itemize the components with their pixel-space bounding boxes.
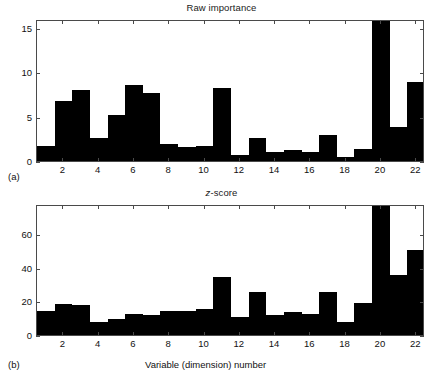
x-tick-mark-top <box>309 20 310 24</box>
bar-series-raw-importance <box>37 21 423 161</box>
x-tick-mark <box>415 332 416 336</box>
x-tick-mark <box>98 158 99 162</box>
panel-b-title: z-score <box>0 187 443 198</box>
bar <box>266 152 284 161</box>
x-tick-mark-top <box>204 20 205 24</box>
x-tick-mark <box>380 158 381 162</box>
y-tick-label: 15 <box>2 24 32 34</box>
bar <box>213 277 231 335</box>
y-tick-label: 60 <box>2 230 32 240</box>
panel-a-title: Raw importance <box>0 2 443 13</box>
bar-series-z-score <box>37 206 423 335</box>
panel-b-letter: (b) <box>8 359 20 370</box>
bar <box>72 90 90 161</box>
y-tick-mark-right <box>420 269 424 270</box>
bar <box>319 135 337 161</box>
y-tick-mark-right <box>420 235 424 236</box>
y-tick-mark <box>36 162 40 163</box>
bar <box>266 315 284 335</box>
x-tick-mark <box>62 158 63 162</box>
bar <box>302 314 320 335</box>
y-tick-mark-right <box>420 336 424 337</box>
x-tick-mark-top <box>62 20 63 24</box>
x-tick-label: 10 <box>189 165 219 175</box>
y-tick-mark-right <box>420 29 424 30</box>
panel-z-score: z-score 0204060 246810121416182022 (b) V… <box>0 185 443 378</box>
x-tick-mark-top <box>98 205 99 209</box>
x-tick-mark-top <box>133 205 134 209</box>
x-tick-label: 20 <box>365 165 395 175</box>
bar <box>178 147 196 161</box>
bar <box>354 303 372 335</box>
x-tick-mark-top <box>345 20 346 24</box>
x-tick-mark <box>133 332 134 336</box>
bar <box>407 82 424 161</box>
y-tick-mark <box>36 118 40 119</box>
x-tick-label: 12 <box>224 339 254 349</box>
x-tick-label: 6 <box>118 339 148 349</box>
panel-a-letter: (a) <box>8 171 20 182</box>
x-tick-mark-top <box>380 20 381 24</box>
x-tick-mark <box>62 332 63 336</box>
y-tick-label: 0 <box>2 157 32 167</box>
x-tick-label: 8 <box>153 339 183 349</box>
bar <box>354 149 372 161</box>
x-tick-mark <box>309 332 310 336</box>
x-tick-mark-top <box>309 205 310 209</box>
bar <box>213 88 231 161</box>
x-tick-mark <box>204 158 205 162</box>
x-tick-mark <box>345 158 346 162</box>
y-tick-mark-right <box>420 73 424 74</box>
bar <box>143 315 161 335</box>
x-tick-label: 16 <box>294 339 324 349</box>
plot-area-raw-importance <box>36 20 424 162</box>
x-tick-mark-top <box>168 205 169 209</box>
x-tick-label: 22 <box>400 165 430 175</box>
x-tick-mark <box>415 158 416 162</box>
y-tick-mark <box>36 235 40 236</box>
x-tick-mark-top <box>239 20 240 24</box>
bar <box>125 85 143 161</box>
x-tick-label: 4 <box>83 339 113 349</box>
x-tick-mark <box>274 158 275 162</box>
x-tick-label: 22 <box>400 339 430 349</box>
x-tick-mark <box>274 332 275 336</box>
bar <box>284 150 302 161</box>
bar <box>143 93 161 161</box>
x-tick-mark <box>133 158 134 162</box>
x-tick-mark-top <box>168 20 169 24</box>
x-tick-mark-top <box>133 20 134 24</box>
bar <box>390 127 408 161</box>
bar <box>302 152 320 161</box>
x-tick-mark-top <box>204 205 205 209</box>
bar <box>160 311 178 335</box>
x-tick-label: 20 <box>365 339 395 349</box>
x-tick-label: 18 <box>330 339 360 349</box>
x-tick-mark-top <box>345 205 346 209</box>
x-tick-label: 2 <box>47 165 77 175</box>
bar <box>178 311 196 335</box>
bar <box>390 275 408 335</box>
y-tick-mark-right <box>420 162 424 163</box>
x-tick-mark-top <box>415 20 416 24</box>
x-tick-mark-top <box>415 205 416 209</box>
x-tick-mark-top <box>62 205 63 209</box>
panel-raw-importance: Raw importance 051015 246810121416182022… <box>0 0 443 185</box>
bar <box>160 144 178 161</box>
bar <box>372 205 390 335</box>
bar <box>72 305 90 335</box>
bar <box>55 101 73 161</box>
y-tick-mark <box>36 73 40 74</box>
x-tick-mark-top <box>380 205 381 209</box>
y-tick-label: 10 <box>2 68 32 78</box>
x-tick-mark <box>309 158 310 162</box>
x-tick-label: 10 <box>189 339 219 349</box>
x-tick-mark <box>239 158 240 162</box>
y-tick-mark-right <box>420 118 424 119</box>
x-tick-mark-top <box>274 20 275 24</box>
y-tick-mark <box>36 302 40 303</box>
bar <box>108 319 126 335</box>
x-tick-label: 16 <box>294 165 324 175</box>
bar <box>55 304 73 335</box>
bar <box>284 312 302 335</box>
